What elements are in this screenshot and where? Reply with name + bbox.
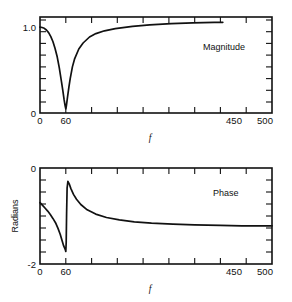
magnitude-ytick-label-0: 0 — [31, 108, 36, 119]
phase-xtick-label-60: 60 — [61, 266, 72, 277]
magnitude-xtick-label-0: 0 — [37, 115, 42, 126]
phase-annotation: Phase — [213, 188, 239, 198]
magnitude-right-ticks — [266, 20, 272, 102]
magnitude-xtick-label-500: 500 — [257, 115, 273, 126]
phase-plot: 0 -2 0 60 450 500 Radians Phase f — [0, 151, 292, 302]
magnitude-panel: 1.0 0 0 60 450 500 Magnitude f — [0, 0, 292, 151]
phase-xtick-label-500: 500 — [257, 266, 273, 277]
magnitude-plot: 1.0 0 0 60 450 500 Magnitude f — [0, 0, 292, 151]
magnitude-xtick-label-450: 450 — [226, 115, 242, 126]
magnitude-left-ticks — [40, 20, 46, 102]
phase-xtick-label-450: 450 — [226, 266, 242, 277]
phase-top-ticks — [66, 168, 246, 174]
magnitude-ytick-label-1: 1.0 — [23, 22, 36, 33]
phase-ytick-label-0: 0 — [31, 163, 36, 174]
phase-xaxis-title: f — [149, 284, 153, 294]
magnitude-curve — [40, 22, 223, 109]
notch-filter-response-figure: 1.0 0 0 60 450 500 Magnitude f — [0, 0, 292, 302]
magnitude-plot-frame — [40, 17, 272, 113]
phase-panel: 0 -2 0 60 450 500 Radians Phase f — [0, 151, 292, 302]
phase-right-ticks — [266, 180, 272, 252]
magnitude-bottom-ticks — [66, 107, 246, 113]
phase-xtick-label-0: 0 — [37, 266, 42, 277]
phase-left-ticks — [40, 180, 46, 252]
magnitude-annotation: Magnitude — [203, 42, 245, 52]
magnitude-xaxis-title: f — [149, 133, 153, 143]
phase-yaxis-title: Radians — [10, 199, 20, 233]
magnitude-xtick-label-60: 60 — [61, 115, 72, 126]
phase-bottom-ticks — [66, 258, 246, 264]
phase-ytick-label-neg2: -2 — [28, 259, 36, 270]
phase-plot-frame — [40, 168, 272, 264]
